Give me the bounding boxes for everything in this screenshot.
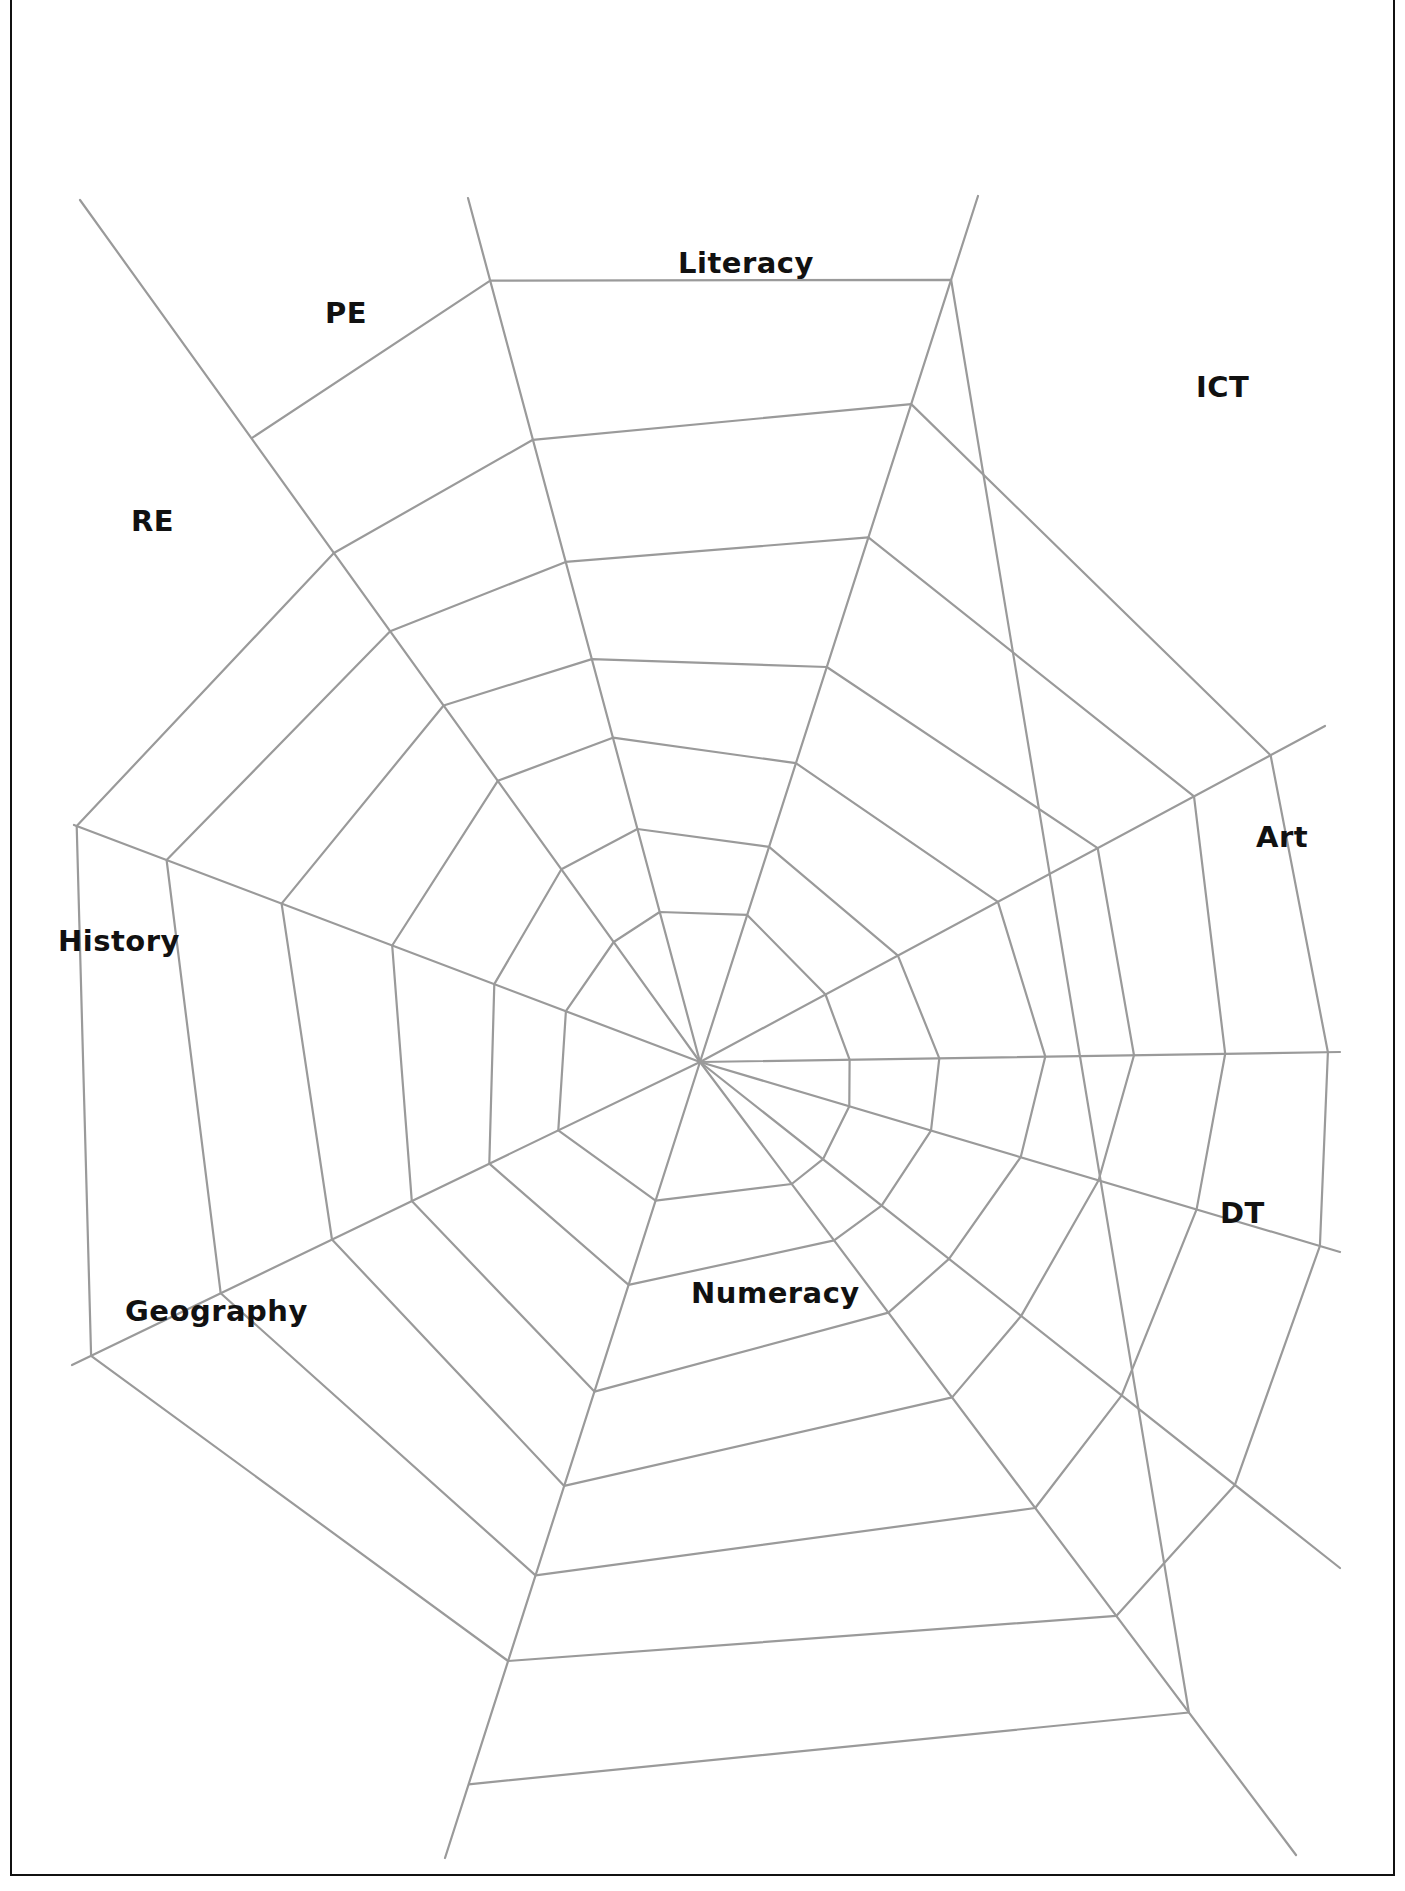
web-ring bbox=[77, 404, 1328, 1661]
web-spoke bbox=[700, 1052, 1340, 1062]
subject-label-art: Art bbox=[1256, 820, 1308, 854]
web-ring bbox=[251, 280, 1189, 1785]
web-ring bbox=[489, 829, 939, 1285]
spider-web-diagram bbox=[0, 0, 1405, 1891]
subject-label-re: RE bbox=[131, 504, 174, 538]
subject-label-literacy: Literacy bbox=[678, 246, 814, 280]
web-rings bbox=[77, 280, 1328, 1785]
web-spokes bbox=[72, 196, 1340, 1858]
web-spoke bbox=[700, 1062, 1296, 1855]
subject-label-dt: DT bbox=[1220, 1196, 1265, 1230]
web-spoke bbox=[445, 1062, 700, 1858]
web-spoke bbox=[700, 196, 978, 1062]
subject-label-history: History bbox=[58, 924, 180, 958]
web-spoke bbox=[700, 726, 1325, 1062]
web-ring bbox=[558, 912, 849, 1201]
web-spoke bbox=[700, 1062, 1340, 1568]
web-spoke bbox=[468, 198, 700, 1062]
subject-label-geography: Geography bbox=[125, 1294, 308, 1328]
subject-label-ict: ICT bbox=[1196, 370, 1249, 404]
subject-label-pe: PE bbox=[325, 296, 367, 330]
subject-label-numeracy: Numeracy bbox=[691, 1276, 860, 1310]
